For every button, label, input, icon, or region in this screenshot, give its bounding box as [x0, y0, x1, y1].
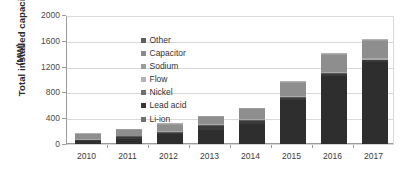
bar-segment-sodium[interactable]	[198, 117, 224, 124]
bar-segment-sodium[interactable]	[280, 83, 306, 96]
y-axis-tick-label: 400	[26, 113, 60, 123]
legend-swatch-icon	[141, 38, 146, 43]
bar-stack[interactable]	[116, 15, 142, 144]
legend-swatch-icon	[141, 77, 146, 82]
bar-stack[interactable]	[75, 15, 101, 144]
x-axis-tick-mark	[148, 145, 149, 148]
x-axis-tick-label: 2017	[354, 151, 394, 161]
legend-item-label: Li-ion	[150, 114, 171, 125]
bar-segment-sodium[interactable]	[239, 109, 265, 119]
bar-segment-li-ion[interactable]	[362, 62, 388, 144]
x-axis-tick-mark	[353, 145, 354, 148]
legend-item-flow[interactable]: Flow	[141, 74, 186, 85]
legend-item-capacitor[interactable]: Capacitor	[141, 48, 186, 59]
bar-segment-li-ion[interactable]	[280, 100, 306, 145]
bar-stack[interactable]	[198, 15, 224, 144]
y-axis-tick-label: 0	[26, 139, 60, 149]
x-axis-tick-label: 2015	[272, 151, 312, 161]
bar-segment-sodium[interactable]	[321, 55, 347, 72]
legend-item-label: Flow	[150, 74, 168, 85]
x-axis-tick-label: 2014	[231, 151, 271, 161]
legend-item-lead-acid[interactable]: Lead acid	[141, 100, 186, 111]
legend-item-nickel[interactable]: Nickel	[141, 87, 186, 98]
plot-area: OtherCapacitorSodiumFlowNickelLead acidL…	[66, 16, 394, 145]
legend-item-other[interactable]: Other	[141, 35, 186, 46]
bar-stack[interactable]	[321, 15, 347, 144]
bar-segment-sodium[interactable]	[362, 41, 388, 58]
legend-item-sodium[interactable]: Sodium	[141, 61, 186, 72]
legend-item-label: Capacitor	[150, 48, 186, 59]
x-axis-tick-label: 2010	[67, 151, 107, 161]
legend-swatch-icon	[141, 103, 146, 108]
bar-stack[interactable]	[239, 15, 265, 144]
legend-swatch-icon	[141, 90, 146, 95]
x-axis-tick-mark	[107, 145, 108, 148]
x-axis-tick-mark	[230, 145, 231, 148]
x-axis-tick-mark	[312, 145, 313, 148]
x-axis-tick-label: 2016	[313, 151, 353, 161]
bar-segment-li-ion[interactable]	[321, 76, 347, 144]
x-axis-tick-mark	[271, 145, 272, 148]
y-axis-tick-label: 1200	[26, 62, 60, 72]
x-axis-tick-label: 2011	[108, 151, 148, 161]
bar-segment-li-ion[interactable]	[116, 139, 142, 144]
stacked-bar-chart: Total installed capacity (MW) 0400800120…	[0, 0, 401, 174]
bar-segment-li-ion[interactable]	[239, 124, 265, 144]
bar-segment-li-ion[interactable]	[198, 130, 224, 145]
bar-stack[interactable]	[362, 15, 388, 144]
legend-item-label: Lead acid	[150, 100, 187, 111]
legend-swatch-icon	[141, 51, 146, 56]
legend-item-label: Sodium	[150, 61, 179, 72]
bar-stack[interactable]	[280, 15, 306, 144]
y-axis-tick-label: 2000	[26, 10, 60, 20]
legend-item-label: Nickel	[150, 87, 173, 98]
bar-segment-li-ion[interactable]	[75, 141, 101, 144]
legend-item-li-ion[interactable]: Li-ion	[141, 114, 186, 125]
y-axis-tick-label: 800	[26, 87, 60, 97]
x-axis-tick-label: 2012	[149, 151, 189, 161]
y-axis-tick-label: 1600	[26, 36, 60, 46]
x-axis-tick-mark	[189, 145, 190, 148]
legend: OtherCapacitorSodiumFlowNickelLead acidL…	[141, 35, 186, 125]
bar-segment-li-ion[interactable]	[157, 134, 183, 144]
legend-swatch-icon	[141, 117, 146, 122]
x-axis-tick-label: 2013	[190, 151, 230, 161]
legend-item-label: Other	[150, 35, 171, 46]
legend-swatch-icon	[141, 64, 146, 69]
